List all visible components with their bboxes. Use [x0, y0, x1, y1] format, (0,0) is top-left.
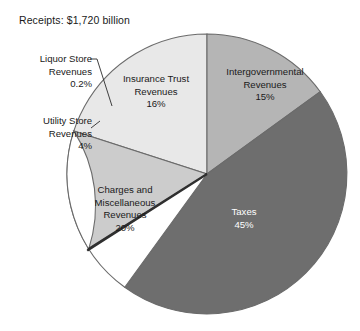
pie-label-utility-store-percent: 4% — [6, 140, 92, 153]
pie-label-intergovernmental: Intergovernmental Revenues 15% — [213, 66, 317, 104]
pie-label-liquor-store-line2: Revenues — [12, 66, 92, 79]
pie-label-liquor-store-line1: Liquor Store — [12, 53, 92, 66]
pie-label-intergovernmental-line2: Revenues — [213, 79, 317, 92]
pie-label-utility-store-line2: Revenues — [6, 128, 92, 141]
pie-label-taxes: Taxes 45% — [218, 206, 270, 231]
pie-label-liquor-store-percent: 0.2% — [12, 78, 92, 91]
pie-label-insurance-trust-percent: 16% — [108, 98, 204, 111]
pie-chart-figure: Receipts: $1,720 billion Insurance Trust… — [0, 0, 360, 331]
pie-chart-graphic — [0, 0, 360, 331]
pie-label-charges-line3: Revenues — [75, 209, 175, 222]
pie-label-charges-line1: Charges and — [75, 184, 175, 197]
pie-label-intergovernmental-percent: 15% — [213, 91, 317, 104]
pie-label-insurance-trust: Insurance Trust Revenues 16% — [108, 73, 204, 111]
pie-label-charges-and-miscellaneous: Charges and Miscellaneous Revenues 20% — [75, 184, 175, 234]
pie-label-liquor-store: Liquor Store Revenues 0.2% — [12, 53, 92, 91]
pie-label-utility-store-line1: Utility Store — [6, 115, 92, 128]
pie-label-taxes-line1: Taxes — [218, 206, 270, 219]
pie-label-charges-percent: 20% — [75, 222, 175, 235]
pie-label-taxes-percent: 45% — [218, 219, 270, 232]
pie-label-insurance-trust-line1: Insurance Trust — [108, 73, 204, 86]
pie-label-charges-line2: Miscellaneous — [75, 197, 175, 210]
pie-label-utility-store: Utility Store Revenues 4% — [6, 115, 92, 153]
pie-label-intergovernmental-line1: Intergovernmental — [213, 66, 317, 79]
pie-label-insurance-trust-line2: Revenues — [108, 86, 204, 99]
